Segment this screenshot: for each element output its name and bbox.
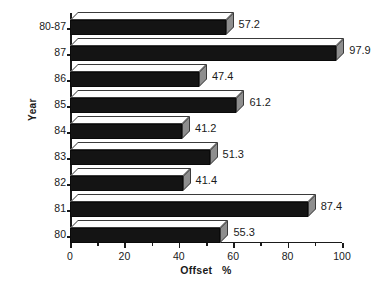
x-tick-minor-10 [97,243,99,246]
x-tick-20 [124,243,126,248]
bar-top-face [70,142,218,150]
y-tick-label-85: 85 [22,99,66,110]
x-tick-label-80: 80 [268,250,308,262]
bar-top-face [70,12,234,20]
bar-top-face [70,64,207,72]
x-axis-title: Offset % [70,264,342,276]
plot-area: 55.387.441.451.341.261.247.497.957.2 020… [70,8,383,243]
x-tick-minor-50 [206,243,208,246]
bar-top-face [70,168,191,176]
bar-front-face [70,98,236,113]
x-tick-minor-70 [260,243,262,246]
y-tick-label-80: 80 [22,229,66,240]
y-tick-label-87: 87 [22,47,66,58]
bar-top-face [70,38,344,46]
bar-top-face [70,194,316,202]
bar-front-face [70,124,182,139]
x-tick-40 [179,243,181,248]
bar-value-label-81: 87.4 [321,200,342,212]
bar-front-face [70,176,183,191]
bar-value-label-87: 97.9 [349,44,370,56]
x-tick-label-40: 40 [159,250,199,262]
y-tick-label-81: 81 [22,203,66,214]
bar-value-label-80: 55.3 [233,226,254,238]
x-tick-label-0: 0 [50,250,90,262]
bar-value-label-85: 61.2 [249,96,270,108]
x-tick-minor-90 [315,243,317,246]
bar-value-label-82: 41.4 [196,174,217,186]
bar-front-face [70,202,308,217]
y-tick-label-84: 84 [22,125,66,136]
x-tick-minor-30 [152,243,154,246]
x-tick-label-20: 20 [104,250,144,262]
x-tick-100 [342,243,344,248]
bar-front-face [70,228,220,243]
bar-top-face [70,90,244,98]
bar-front-face [70,72,199,87]
y-tick-label-82: 82 [22,177,66,188]
bar-chart: Year 80-87 87 86 85 84 83 82 81 80 55.38… [0,0,383,291]
y-tick-label-86: 86 [22,73,66,84]
x-tick-80 [288,243,290,248]
bar-front-face [70,46,336,61]
bar-value-label-83: 51.3 [223,148,244,160]
bar-value-label-86: 47.4 [212,70,233,82]
bar-front-face [70,20,226,35]
x-tick-label-100: 100 [322,250,362,262]
bar-value-label-80-87: 57.2 [239,18,260,30]
bar-front-face [70,150,210,165]
y-tick-label-80-87: 80-87 [22,21,66,32]
bar-value-label-84: 41.2 [195,122,216,134]
x-tick-label-60: 60 [213,250,253,262]
y-tick-label-83: 83 [22,151,66,162]
bar-top-face [70,116,190,124]
x-tick-60 [233,243,235,248]
bar-top-face [70,220,228,228]
x-tick-0 [70,243,72,248]
y-axis-tick-labels: 80-87 87 86 85 84 83 82 81 80 [16,0,66,291]
